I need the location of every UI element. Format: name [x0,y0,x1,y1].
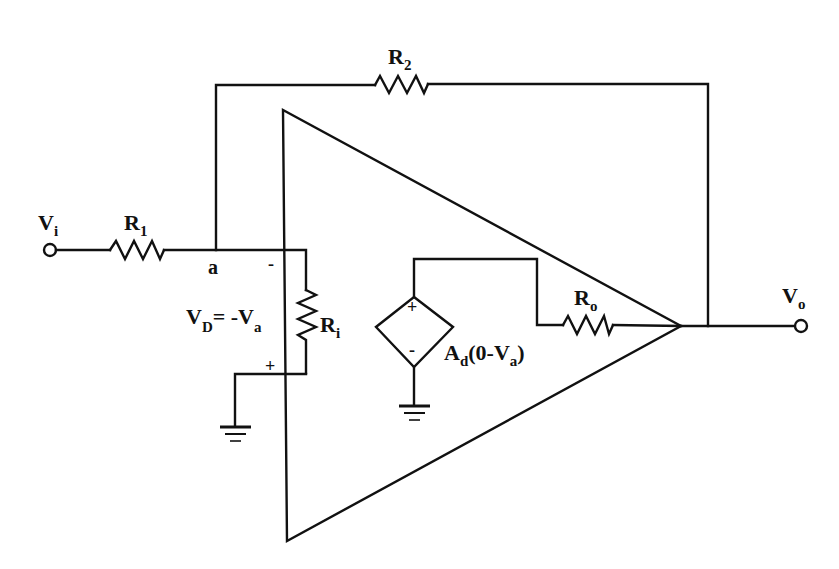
ro-resistor [563,316,613,334]
ground-icon [399,406,430,420]
wire-feedback-left [216,85,375,250]
vi-label: Vi [38,210,58,239]
vo-label: Vo [782,283,805,312]
r2-label: R2 [388,44,411,73]
source-plus-sign: + [407,297,417,317]
ground-icon [220,427,251,441]
node-a-label: a [208,256,218,278]
vi-terminal [44,244,56,256]
wire-ro-output [613,325,681,326]
ri-label: Ri [320,312,340,341]
opamp-circuit-diagram: Vi R1 a - R2 Ri VD= -Va + + - Ad(0-Va) R… [0,0,839,569]
vo-terminal [795,320,807,332]
minus-input-sign: - [268,254,274,274]
source-expression: Ad(0-Va) [444,340,525,369]
wire-plus-ground [235,374,306,426]
ro-label: Ro [574,285,597,314]
r1-resistor [110,241,164,259]
vd-label: VD= -Va [186,304,262,335]
r2-resistor [375,76,428,93]
ri-resistor [298,290,316,373]
wire-feedback-right [428,84,708,326]
r1-label: R1 [124,210,147,239]
source-minus-sign: - [409,340,415,360]
